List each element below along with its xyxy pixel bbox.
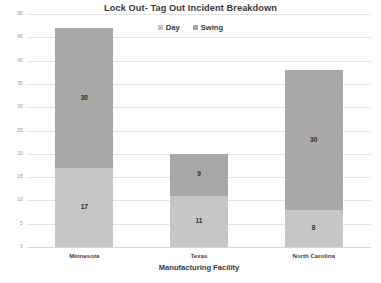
bar-segment[interactable]: 9: [170, 154, 228, 196]
bar-value-label: 9: [197, 171, 201, 178]
bar-segment[interactable]: 8: [285, 210, 343, 247]
x-axis-tick-label: Texas: [191, 252, 208, 259]
bar-value-label: 30: [310, 137, 317, 144]
bar-group: 119: [170, 14, 228, 247]
chart-container: Lock Out- Tag Out Incident Breakdown Day…: [0, 0, 381, 283]
bar-group: 830: [285, 14, 343, 247]
y-axis-tick-label: 15: [17, 174, 23, 179]
y-axis-tick-label: 20: [17, 151, 23, 156]
plot-area: 05101520253035404550 1730119830: [27, 14, 371, 247]
y-axis-tick-label: 10: [17, 198, 23, 203]
bar-value-label: 8: [312, 225, 316, 232]
y-axis-tick-label: 5: [20, 221, 23, 226]
bar-value-label: 30: [81, 95, 88, 102]
y-axis-tick-label: 50: [17, 11, 23, 16]
x-axis-title: Manufacturing Facility: [27, 263, 371, 272]
bar-value-label: 11: [196, 218, 203, 225]
x-axis-tick-label: Minnesota: [69, 252, 99, 259]
bar-segment[interactable]: 30: [55, 28, 113, 168]
y-axis-tick-label: 40: [17, 58, 23, 63]
gridline: [27, 247, 371, 248]
y-axis-tick-label: 35: [17, 81, 23, 86]
bar-segment[interactable]: 17: [55, 168, 113, 247]
y-axis-tick-label: 30: [17, 105, 23, 110]
chart-title: Lock Out- Tag Out Incident Breakdown: [0, 3, 381, 13]
bars-layer: 1730119830: [27, 14, 371, 247]
x-axis-tick-label: North Carolina: [292, 252, 334, 259]
y-axis-tick-label: 45: [17, 35, 23, 40]
bar-value-label: 17: [81, 204, 88, 211]
bar-stack: 830: [285, 70, 343, 247]
bar-segment[interactable]: 11: [170, 196, 228, 247]
y-axis-tick-label: 0: [20, 244, 23, 249]
bar-stack: 119: [170, 154, 228, 247]
bar-stack: 1730: [55, 28, 113, 247]
bar-segment[interactable]: 30: [285, 70, 343, 210]
y-axis-tick-label: 25: [17, 128, 23, 133]
bar-group: 1730: [55, 14, 113, 247]
